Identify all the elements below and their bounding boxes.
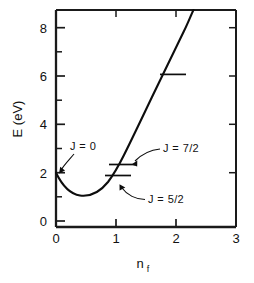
annotation-j-five-halves-leader xyxy=(122,188,145,200)
y-tick-label-0: 0 xyxy=(40,214,47,229)
y-tick-labels: 0 2 4 6 8 xyxy=(40,21,47,229)
annotation-j-five-halves-label: J = 5/2 xyxy=(148,193,184,205)
annotation-j-zero-leader xyxy=(62,154,75,170)
level-markers xyxy=(105,74,186,175)
x-axis-title: n f xyxy=(136,256,149,274)
annotation-j-zero: J = 0 xyxy=(59,140,96,174)
x-tick-label-3: 3 xyxy=(232,231,239,246)
y-tick-label-6: 6 xyxy=(40,69,47,84)
annotation-j-zero-label: J = 0 xyxy=(70,140,96,152)
x-axis-title-sub: f xyxy=(147,264,150,274)
annotation-j-five-halves: J = 5/2 xyxy=(120,184,185,205)
y-tick-label-2: 2 xyxy=(40,166,47,181)
y-tick-label-8: 8 xyxy=(40,21,47,36)
right-axis-ticks xyxy=(229,28,236,173)
energy-curve xyxy=(56,10,194,196)
energy-vs-nf-plot: 0 2 4 6 8 0 1 2 3 E (eV) n f xyxy=(0,0,254,283)
chart-figure: 0 2 4 6 8 0 1 2 3 E (eV) n f xyxy=(0,0,254,283)
annotation-j-seven-halves-arrowhead xyxy=(132,161,138,167)
x-axis-title-base: n xyxy=(136,256,143,271)
annotation-j-seven-halves-leader xyxy=(135,149,160,161)
annotation-j-five-halves-arrowhead xyxy=(120,184,126,190)
y-tick-label-4: 4 xyxy=(40,117,47,132)
annotation-j-seven-halves: J = 7/2 xyxy=(132,142,200,167)
y-axis-title: E (eV) xyxy=(10,101,25,138)
x-tick-label-2: 2 xyxy=(172,231,179,246)
x-tick-label-1: 1 xyxy=(112,231,119,246)
plot-frame xyxy=(56,10,236,227)
y-axis-major-ticks xyxy=(56,28,65,221)
annotation-j-seven-halves-label: J = 7/2 xyxy=(163,142,199,154)
x-tick-labels: 0 1 2 3 xyxy=(52,231,239,246)
x-tick-label-0: 0 xyxy=(52,231,59,246)
x-axis-ticks xyxy=(56,10,236,227)
